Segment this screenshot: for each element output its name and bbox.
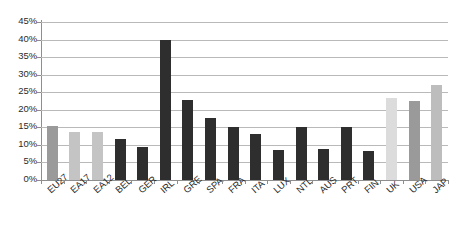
x-axis-tick-mark (109, 181, 110, 184)
x-axis-tick-mark (199, 181, 200, 184)
x-axis-tick-mark (131, 181, 132, 184)
y-axis-tick-label: 15% (3, 121, 37, 131)
bar (273, 150, 284, 180)
bar (431, 85, 442, 180)
y-axis-tick-labels: 0%5%10%15%20%25%30%35%40%45% (0, 0, 37, 225)
x-axis-line (41, 180, 449, 181)
x-axis-tick-mark (245, 181, 246, 184)
y-axis-tick-label: 5% (3, 156, 37, 166)
bar (363, 151, 374, 180)
x-axis-tick-mark (177, 181, 178, 184)
gridline (41, 40, 448, 41)
bar (137, 147, 148, 180)
bar (386, 98, 397, 180)
bar (341, 127, 352, 180)
y-axis-tick-label: 25% (3, 86, 37, 96)
x-axis-tick-mark (335, 181, 336, 184)
y-axis-tick-label: 40% (3, 34, 37, 44)
y-axis-tick-label: 20% (3, 104, 37, 114)
x-axis-tick-mark (425, 181, 426, 184)
bar (250, 134, 261, 180)
bar (47, 126, 58, 180)
y-axis-tick-label: 45% (3, 16, 37, 26)
y-axis-tick-label: 35% (3, 51, 37, 61)
y-axis-tick-label: 0% (3, 174, 37, 184)
gridline (41, 75, 448, 76)
x-axis-tick-mark (222, 181, 223, 184)
x-axis-tick-mark (86, 181, 87, 184)
bar-chart: 0%5%10%15%20%25%30%35%40%45% EU27EA17EA1… (0, 0, 454, 225)
y-axis-tick-label: 10% (3, 139, 37, 149)
x-axis-tick-mark (448, 181, 449, 184)
x-axis-tick-mark (358, 181, 359, 184)
y-axis-tick-mark (37, 180, 41, 181)
bar (69, 132, 80, 180)
x-axis-tick-mark (290, 181, 291, 184)
gridline (41, 92, 448, 93)
bar (296, 127, 307, 180)
bar (92, 132, 103, 180)
x-axis-tick-mark (154, 181, 155, 184)
bar (205, 118, 216, 180)
bar (182, 100, 193, 180)
y-axis-tick-label: 30% (3, 69, 37, 79)
bar (318, 149, 329, 180)
x-axis-tick-mark (403, 181, 404, 184)
gridline (41, 57, 448, 58)
bar (228, 127, 239, 180)
gridline (41, 22, 448, 23)
bar (409, 101, 420, 180)
x-axis-tick-mark (380, 181, 381, 184)
x-axis-tick-mark (64, 181, 65, 184)
plot-area (41, 22, 448, 180)
bar (160, 40, 171, 180)
x-axis-tick-mark (312, 181, 313, 184)
bar (115, 139, 126, 180)
x-axis-tick-mark (267, 181, 268, 184)
